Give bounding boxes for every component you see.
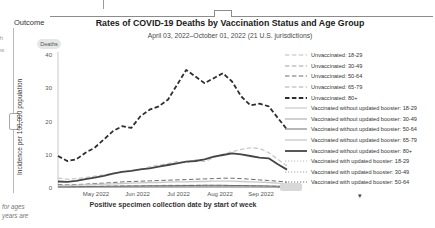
legend-label: Vaccinated with updated booster: 18-29 <box>311 158 409 164</box>
legend-item[interactable]: Vaccinated without updated booster: 18-2… <box>284 103 435 114</box>
legend-item[interactable]: Vaccinated with updated booster: 30-49 <box>284 167 435 178</box>
legend-item[interactable]: Vaccinated without updated booster: 65-7… <box>284 135 435 146</box>
legend-label: Vaccinated with updated booster: 50-64 <box>311 179 409 185</box>
x-axis-tick-label: Jun 2022 <box>125 191 150 197</box>
legend-label: Unvaccinated: 50-64 <box>311 73 362 79</box>
series-line-vaccinated-without-updated-booster-80-[interactable] <box>58 153 287 182</box>
y-axis-tick-label: 30 <box>45 85 52 91</box>
legend-line-sample-icon <box>284 115 308 123</box>
x-axis-tick-label: Aug 2022 <box>207 191 233 197</box>
legend-label: Unvaccinated: 80+ <box>311 95 358 101</box>
y-axis-tick-label: 0 <box>49 185 53 191</box>
legend-line-sample-icon <box>284 72 308 80</box>
legend-line-sample-icon <box>284 147 308 155</box>
legend-item[interactable]: Vaccinated without updated booster: 50-6… <box>284 124 435 135</box>
legend-item[interactable]: Unvaccinated: 65-79 <box>284 82 435 93</box>
covid-tracker-page: Outcome th ns Deaths Rates of COVID-19 D… <box>0 0 435 228</box>
legend-label: Vaccinated without updated booster: 80+ <box>311 148 412 154</box>
legend-line-sample-icon <box>284 94 308 102</box>
legend-line-sample-icon <box>284 125 308 133</box>
y-axis-tick-label: 10 <box>45 152 52 158</box>
footnote-fragment: for ages <box>2 203 25 210</box>
x-axis-tick-label: Jul 2022 <box>167 191 190 197</box>
legend-line-sample-icon <box>284 62 308 70</box>
legend-label: Vaccinated without updated booster: 18-2… <box>311 105 417 111</box>
legend-item[interactable]: Vaccinated without updated booster: 30-4… <box>284 114 435 125</box>
legend-label: Vaccinated without updated booster: 65-7… <box>311 137 417 143</box>
footnote-fragment: years are <box>2 212 28 219</box>
legend-line-sample-icon <box>284 157 308 165</box>
legend-item[interactable]: Vaccinated with updated booster: 18-29 <box>284 156 435 167</box>
legend-item[interactable]: Unvaccinated: 18-29 <box>284 50 435 61</box>
crop-artifact-box <box>280 183 302 191</box>
legend-item[interactable]: Vaccinated without updated booster: 80+ <box>284 145 435 156</box>
legend-line-sample-icon <box>284 104 308 112</box>
series-line-unvaccinated-80-[interactable] <box>58 70 287 161</box>
legend-line-sample-icon <box>284 83 308 91</box>
x-axis-tick-label: Sep 2022 <box>248 191 274 197</box>
legend-line-sample-icon <box>284 51 308 59</box>
legend-scroll-down-icon[interactable]: ▾ <box>284 192 435 200</box>
legend-line-sample-icon <box>284 136 308 144</box>
y-axis-tick-label: 20 <box>45 119 52 125</box>
legend-label: Vaccinated with updated booster: 30-49 <box>311 169 409 175</box>
legend-label: Unvaccinated: 30-49 <box>311 63 362 69</box>
legend-item[interactable]: Unvaccinated: 30-49 <box>284 61 435 72</box>
legend-item[interactable]: Unvaccinated: 50-64 <box>284 71 435 82</box>
legend-label: Vaccinated without updated booster: 50-6… <box>311 126 417 132</box>
legend-label: Vaccinated without updated booster: 30-4… <box>311 116 417 122</box>
axis-lines <box>58 52 289 188</box>
x-axis-tick-label: May 2022 <box>83 191 110 197</box>
legend-item[interactable]: Unvaccinated: 80+ <box>284 92 435 103</box>
legend-label: Unvaccinated: 65-79 <box>311 84 362 90</box>
legend-label: Unvaccinated: 18-29 <box>311 52 362 58</box>
y-axis-tick-label: 40 <box>45 52 52 58</box>
chart-legend: Unvaccinated: 18-29Unvaccinated: 30-49Un… <box>284 50 435 188</box>
legend-item[interactable]: Vaccinated with updated booster: 50-64 <box>284 177 435 188</box>
legend-line-sample-icon <box>284 168 308 176</box>
